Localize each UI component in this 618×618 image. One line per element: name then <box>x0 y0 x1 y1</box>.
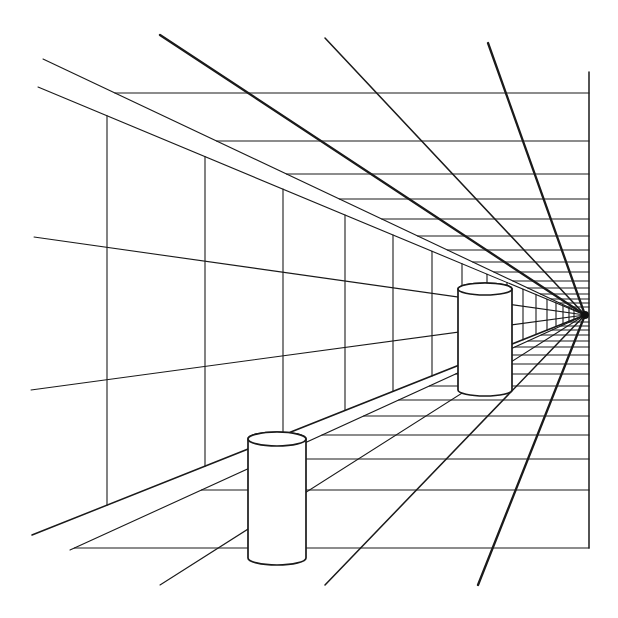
corridor-illusion: Perspective corridor illusion with two c… <box>0 0 618 618</box>
perspective-ray <box>325 315 585 585</box>
cylinder-far <box>458 283 512 396</box>
perspective-ray <box>488 43 585 315</box>
perspective-ray <box>325 38 585 315</box>
vanishing-point <box>581 311 589 319</box>
perspective-drawing <box>0 0 618 618</box>
cylinder-top-near <box>248 432 306 446</box>
cylinder-near <box>248 432 306 565</box>
cylinder-top-far <box>458 283 512 295</box>
perspective-ray <box>160 315 585 585</box>
upper-rail-line <box>38 87 585 315</box>
perspective-ray <box>160 35 585 315</box>
